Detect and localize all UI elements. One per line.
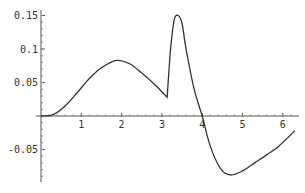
data-line	[41, 15, 295, 175]
y-tick-label: 0.1	[20, 44, 38, 55]
y-ticks: 0.150.10.05-0.05	[8, 10, 45, 176]
x-tick-label: 1	[78, 119, 84, 130]
y-tick-label: 0.15	[14, 10, 38, 21]
y-tick-label: -0.05	[8, 144, 38, 155]
line-chart: 123456 0.150.10.05-0.05	[0, 0, 305, 193]
x-tick-label: 6	[280, 119, 286, 130]
x-tick-label: 5	[239, 119, 245, 130]
x-tick-label: 2	[119, 119, 125, 130]
y-tick-label: 0.05	[14, 77, 38, 88]
x-tick-label: 3	[159, 119, 165, 130]
